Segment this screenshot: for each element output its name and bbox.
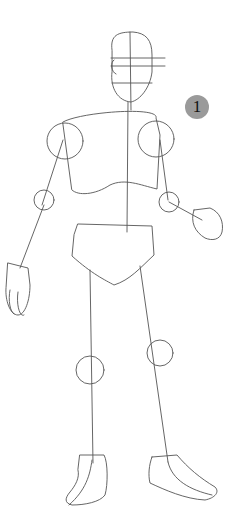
left-forearm — [20, 205, 44, 268]
left-foot — [66, 455, 107, 505]
left-hand — [6, 263, 30, 315]
left-shoulder-joint — [47, 123, 83, 159]
step-number-badge: 1 — [185, 95, 209, 119]
right-foot — [149, 455, 217, 500]
figure-sketch — [0, 0, 242, 525]
spine-line — [127, 102, 128, 232]
right-upper-arm — [160, 140, 168, 200]
step-number: 1 — [193, 97, 202, 117]
right-hand — [193, 208, 223, 240]
left-leg — [90, 270, 93, 463]
torso — [63, 111, 160, 193]
right-knee-joint — [147, 340, 173, 366]
right-shoulder-joint — [138, 121, 174, 157]
head — [112, 32, 152, 102]
right-leg — [140, 266, 168, 462]
left-knee-joint — [76, 356, 104, 384]
head-center-line — [130, 32, 131, 110]
